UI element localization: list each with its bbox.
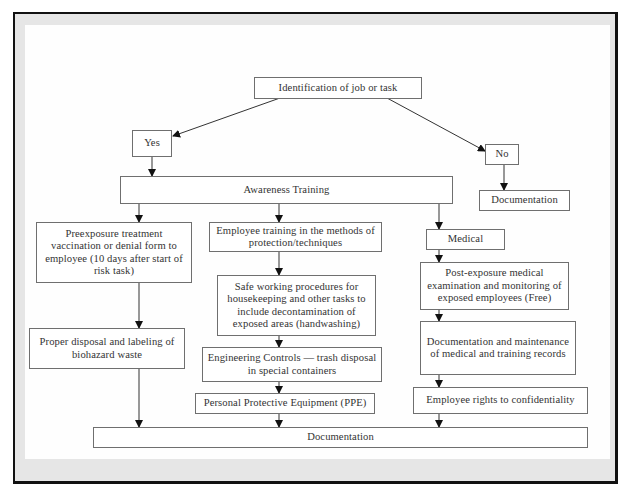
- node-medical: Medical: [426, 229, 505, 250]
- node-identification: Identification of job or task: [254, 77, 422, 99]
- node-label: Documentation and maintenance of medical…: [425, 336, 571, 361]
- node-label: Engineering Controls — trash disposal in…: [207, 352, 377, 377]
- node-yes: Yes: [132, 130, 172, 157]
- node-post-exposure: Post-exposure medical examination and mo…: [420, 262, 569, 310]
- node-awareness-training: Awareness Training: [120, 176, 453, 204]
- node-label: Post-exposure medical examination and mo…: [425, 267, 564, 304]
- node-label: Safe working procedures for housekeeping…: [222, 281, 371, 331]
- node-documentation-final: Documentation: [93, 427, 588, 448]
- node-label: Yes: [144, 137, 160, 149]
- node-safe-working: Safe working procedures for housekeeping…: [217, 275, 376, 336]
- node-documentation-maintenance: Documentation and maintenance of medical…: [420, 321, 576, 375]
- node-preexposure: Preexposure treatment vaccination or den…: [36, 222, 192, 283]
- node-label: Documentation: [307, 431, 374, 443]
- node-label: Personal Protective Equipment (PPE): [204, 397, 367, 409]
- node-label: Awareness Training: [244, 184, 330, 196]
- node-proper-disposal: Proper disposal and labeling of biohazar…: [29, 328, 185, 369]
- node-label: Employee training in the methods of prot…: [214, 225, 377, 250]
- node-label: Proper disposal and labeling of biohazar…: [34, 336, 180, 361]
- node-engineering-controls: Engineering Controls — trash disposal in…: [202, 347, 382, 382]
- node-ppe: Personal Protective Equipment (PPE): [195, 393, 375, 414]
- node-employee-rights: Employee rights to confidentiality: [413, 387, 588, 414]
- node-label: Medical: [448, 233, 483, 245]
- node-label: Employee rights to confidentiality: [426, 394, 574, 406]
- node-label: Preexposure treatment vaccination or den…: [41, 228, 187, 278]
- node-label: No: [495, 148, 508, 160]
- node-no: No: [485, 144, 519, 165]
- node-employee-training: Employee training in the methods of prot…: [209, 222, 382, 252]
- node-documentation-no: Documentation: [479, 190, 570, 211]
- node-label: Documentation: [491, 194, 558, 206]
- node-label: Identification of job or task: [279, 82, 398, 94]
